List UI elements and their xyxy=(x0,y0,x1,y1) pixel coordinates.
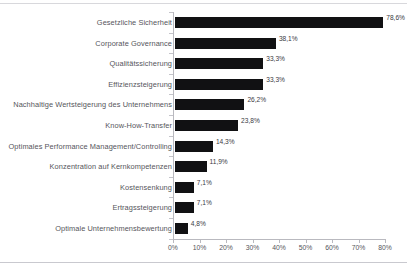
x-tick xyxy=(332,239,333,243)
bar xyxy=(175,99,244,110)
y-tick xyxy=(169,12,173,13)
bar xyxy=(175,79,263,90)
bar-value-label: 14,3% xyxy=(216,136,235,147)
y-tick xyxy=(169,94,173,95)
category-label: Konzentration auf Kernkompetenzen xyxy=(50,156,172,177)
bar xyxy=(175,120,238,131)
bar-row: Effizienzsteigerung33,3% xyxy=(0,74,407,95)
bar xyxy=(175,58,263,69)
y-tick xyxy=(169,33,173,34)
category-label: Know-How-Transfer xyxy=(105,115,172,136)
bar-row: Know-How-Transfer23,8% xyxy=(0,115,407,136)
x-tick xyxy=(253,239,254,243)
category-label: Ertragssteigerung xyxy=(112,197,172,218)
x-tick xyxy=(306,239,307,243)
bar-value-label: 78,6% xyxy=(386,12,405,23)
bar-row: Gesetzliche Sicherheit78,6% xyxy=(0,12,407,33)
y-tick xyxy=(169,115,173,116)
bar-value-label: 7,1% xyxy=(197,197,212,208)
bar-container xyxy=(175,58,263,69)
x-tick xyxy=(279,239,280,243)
bar-row: Corporate Governance38,1% xyxy=(0,33,407,54)
bar-row: Optimale Unternehmensbewertung4,8% xyxy=(0,218,407,239)
x-tick xyxy=(173,239,174,243)
category-label: Gesetzliche Sicherheit xyxy=(97,12,172,33)
bar xyxy=(175,17,383,28)
category-label: Effizienzsteigerung xyxy=(108,74,172,95)
bar-container xyxy=(175,38,276,49)
x-tick xyxy=(200,239,201,243)
bar-row: Kostensenkung7,1% xyxy=(0,177,407,198)
y-tick xyxy=(169,218,173,219)
chart-page: Gesetzliche Sicherheit78,6%Corporate Gov… xyxy=(0,0,407,268)
y-tick xyxy=(169,156,173,157)
bar xyxy=(175,202,194,213)
y-tick xyxy=(169,177,173,178)
bar-container xyxy=(175,141,213,152)
bar-row: Konzentration auf Kernkompetenzen11,9% xyxy=(0,156,407,177)
bar-container xyxy=(175,182,194,193)
x-tick xyxy=(359,239,360,243)
category-label: Kostensenkung xyxy=(120,177,172,198)
bar-value-label: 23,8% xyxy=(241,115,260,126)
y-tick xyxy=(169,136,173,137)
bar-value-label: 33,3% xyxy=(266,53,285,64)
bar-value-label: 38,1% xyxy=(279,33,298,44)
category-label: Qualitätssicherung xyxy=(109,53,172,74)
bar xyxy=(175,141,213,152)
bar-container xyxy=(175,17,383,28)
bar-container xyxy=(175,202,194,213)
bar-row: Qualitätssicherung33,3% xyxy=(0,53,407,74)
bar xyxy=(175,223,188,234)
category-label: Corporate Governance xyxy=(95,33,172,54)
bar-value-label: 26,2% xyxy=(247,94,266,105)
bar-container xyxy=(175,223,188,234)
bar-container xyxy=(175,99,244,110)
category-label: Optimale Unternehmensbewertung xyxy=(55,218,172,239)
y-tick xyxy=(169,197,173,198)
bar-value-label: 7,1% xyxy=(197,177,212,188)
bar-container xyxy=(175,120,238,131)
bar-row: Optimales Performance Management/Control… xyxy=(0,136,407,157)
bar xyxy=(175,182,194,193)
bar-value-label: 4,8% xyxy=(191,218,206,229)
category-label: Optimales Performance Management/Control… xyxy=(9,136,172,157)
bar-value-label: 33,3% xyxy=(266,74,285,85)
bar xyxy=(175,38,276,49)
x-tick xyxy=(385,239,386,243)
bar-row: Ertragssteigerung7,1% xyxy=(0,197,407,218)
bar-value-label: 11,9% xyxy=(210,156,228,167)
bar xyxy=(175,161,207,172)
x-tick-label: 80% xyxy=(365,244,405,251)
bar-row: Nachhaltige Wertsteigerung des Unternehm… xyxy=(0,94,407,115)
bar-container xyxy=(175,161,207,172)
category-label: Nachhaltige Wertsteigerung des Unternehm… xyxy=(13,94,172,115)
x-tick xyxy=(226,239,227,243)
horizontal-bar-chart: Gesetzliche Sicherheit78,6%Corporate Gov… xyxy=(0,0,407,268)
y-tick xyxy=(169,74,173,75)
bar-container xyxy=(175,79,263,90)
y-tick xyxy=(169,53,173,54)
